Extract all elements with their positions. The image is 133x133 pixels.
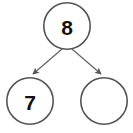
tree-node-right-child[interactable]	[81, 78, 127, 124]
node-left-child-label: 7	[24, 91, 36, 114]
tree-node-left-child[interactable]: 7	[7, 78, 53, 124]
node-right-child-circle[interactable]	[81, 78, 127, 124]
edge-root-to-right-child	[72, 49, 101, 74]
edge-root-to-left-child	[33, 49, 62, 74]
node-root-label: 8	[61, 16, 73, 39]
tree-canvas: 8 7	[0, 0, 133, 133]
binary-tree-diagram: 8 7	[0, 0, 133, 133]
tree-node-root[interactable]: 8	[44, 3, 90, 49]
edge-group	[33, 49, 101, 74]
